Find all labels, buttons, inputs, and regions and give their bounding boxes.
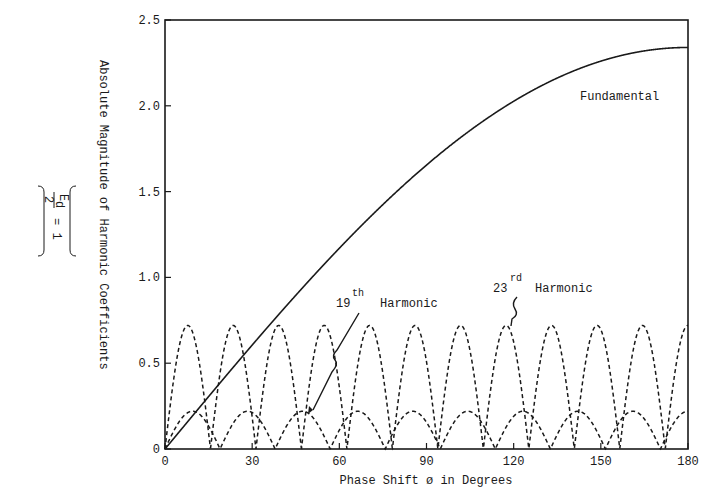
harmonic-19-label: 19 th Harmonic bbox=[336, 288, 438, 311]
harmonic-19-number: 19 bbox=[336, 297, 350, 311]
x-tick-label: 120 bbox=[503, 455, 525, 469]
harmonic-19-superscript: th bbox=[352, 288, 364, 299]
y-tick-label: 0 bbox=[153, 443, 160, 457]
fundamental-curve bbox=[165, 47, 688, 449]
x-axis-label: Phase Shift ø in Degrees bbox=[340, 474, 513, 488]
x-tick-label: 180 bbox=[677, 455, 699, 469]
axis-ticks: 030609012015018000.51.01.52.02.5 bbox=[138, 14, 698, 469]
x-tick-label: 30 bbox=[245, 455, 259, 469]
harmonic-19-arrowhead-icon bbox=[308, 406, 313, 414]
y-axis-normalization-note: Ed2= 1 bbox=[38, 186, 76, 256]
note-equals: = 1 bbox=[49, 218, 63, 240]
harmonic-23-number: 23 bbox=[493, 282, 507, 296]
y-tick-label: 0.5 bbox=[138, 357, 160, 371]
x-tick-label: 60 bbox=[332, 455, 346, 469]
harmonic-23-word: Harmonic bbox=[535, 282, 593, 296]
harmonic-23-curve bbox=[165, 325, 688, 449]
y-tick-label: 2.5 bbox=[138, 14, 160, 28]
x-tick-label: 0 bbox=[161, 455, 168, 469]
y-axis-title: Absolute Magnitude of Harmonic Coefficie… bbox=[96, 60, 110, 370]
harmonic-23-pointer bbox=[511, 297, 517, 326]
fundamental-label: Fundamental bbox=[580, 90, 659, 104]
harmonic-23-superscript: rd bbox=[510, 273, 522, 284]
x-tick-label: 90 bbox=[419, 455, 433, 469]
note-denominator: 2 bbox=[41, 196, 55, 203]
plot-frame bbox=[165, 20, 688, 449]
y-axis-label: Absolute Magnitude of Harmonic Coefficie… bbox=[96, 60, 110, 370]
y-tick-label: 2.0 bbox=[138, 100, 160, 114]
harmonic-19-arrow bbox=[313, 313, 359, 410]
annotations: Fundamental 19 th Harmonic 23 rd Harmoni… bbox=[308, 90, 659, 414]
harmonic-coefficients-chart: Absolute Magnitude of Harmonic Coefficie… bbox=[0, 0, 725, 503]
y-tick-label: 1.0 bbox=[138, 271, 160, 285]
plot-area bbox=[165, 20, 688, 449]
y-tick-label: 1.5 bbox=[138, 186, 160, 200]
harmonic-19-word: Harmonic bbox=[380, 297, 438, 311]
x-tick-label: 150 bbox=[590, 455, 612, 469]
harmonic-23-label: 23 rd Harmonic bbox=[493, 273, 593, 296]
